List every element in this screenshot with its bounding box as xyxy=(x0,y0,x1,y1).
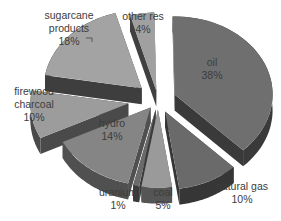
label-coal-name: coal xyxy=(153,186,172,199)
label-uranium-name: uranium xyxy=(99,186,137,199)
label-charcoal-name: charcoal xyxy=(14,98,54,111)
label-hydro-value: 14% xyxy=(99,130,125,143)
label-coal-value: 5% xyxy=(153,199,172,212)
label-coal: coal 5% xyxy=(153,186,172,212)
label-other-res: other res 4% xyxy=(122,10,163,36)
label-firewood-name: firewood xyxy=(14,85,54,98)
label-natural-gas-name: natural gas xyxy=(216,180,268,193)
label-oil-value: 38% xyxy=(201,69,222,82)
label-sugarcane-value: 18% xyxy=(44,35,93,48)
label-other-res-value: 4% xyxy=(122,23,163,36)
label-sugarcane-name: sugarcane xyxy=(44,9,93,22)
label-firewood-charcoal: firewood charcoal 10% xyxy=(14,85,54,124)
label-natural-gas-value: 10% xyxy=(216,193,268,206)
label-uranium-value: 1% xyxy=(99,199,137,212)
label-firewood-value: 10% xyxy=(14,111,54,124)
label-hydro-name: hydro xyxy=(99,117,125,130)
label-products-name: products xyxy=(44,22,93,35)
label-other-res-name: other res xyxy=(122,10,163,23)
label-oil-name: oil xyxy=(201,56,222,69)
label-uranium: uranium 1% xyxy=(99,186,137,212)
label-natural-gas: natural gas 10% xyxy=(216,180,268,206)
label-oil: oil 38% xyxy=(201,56,222,82)
label-hydro: hydro 14% xyxy=(99,117,125,143)
label-sugarcane-products: sugarcane products 18% xyxy=(44,9,93,48)
